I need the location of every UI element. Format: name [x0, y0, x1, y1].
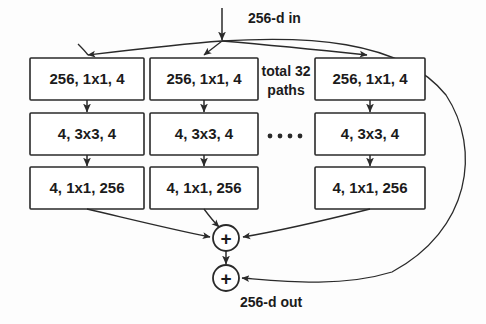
- merge-edge-path-32: [243, 209, 370, 237]
- paths-note-line-2: paths: [267, 82, 305, 98]
- path-1-box-3-label: 4, 1x1, 256: [49, 179, 124, 196]
- path-1-box-2-label: 4, 3x3, 4: [58, 125, 117, 142]
- path-2-box-2-label: 4, 3x3, 4: [175, 125, 234, 142]
- path-32-box-1-label: 256, 1x1, 4: [332, 70, 408, 87]
- path-2-box-3-label: 4, 1x1, 256: [166, 179, 241, 196]
- ellipsis-dot-1: [268, 134, 273, 139]
- ellipsis-dot-4: [298, 134, 303, 139]
- fanout-hook-path-1: [78, 44, 88, 55]
- residual-sum-symbol: +: [220, 268, 231, 289]
- fanout-edge-path-2: [204, 41, 222, 55]
- merge-edge-path-1: [87, 209, 210, 237]
- fanout-edge-path-32: [222, 41, 367, 55]
- fanout-edge-path-1: [88, 41, 222, 55]
- input-group: 256-d in: [222, 8, 301, 40]
- ellipsis-dot-2: [278, 134, 283, 139]
- path-1-column: 256, 1x1, 4 4, 3x3, 4 4, 1x1, 256: [30, 58, 144, 209]
- ellipsis-dot-3: [288, 134, 293, 139]
- merge-edge-path-2: [204, 209, 219, 227]
- output-label: 256-d out: [240, 294, 303, 310]
- path-2-box-1-label: 256, 1x1, 4: [166, 70, 242, 87]
- residual-sum-node[interactable]: +: [213, 265, 239, 291]
- paths-note-line-1: total 32: [261, 63, 310, 79]
- fanout-edges: [78, 41, 367, 55]
- aggregation-sum-symbol: +: [220, 228, 231, 249]
- paths-note: total 32 paths: [261, 63, 310, 98]
- path-32-box-3-label: 4, 1x1, 256: [332, 179, 407, 196]
- path-32-box-2-label: 4, 3x3, 4: [341, 125, 400, 142]
- path-32-column: 256, 1x1, 4 4, 3x3, 4 4, 1x1, 256: [315, 58, 425, 209]
- input-label: 256-d in: [248, 10, 301, 26]
- aggregation-sum-node[interactable]: +: [213, 225, 239, 251]
- resnext-block-diagram: 256-d in 256, 1x1, 4 4, 3x3, 4 4: [0, 0, 486, 324]
- path-2-column: 256, 1x1, 4 4, 3x3, 4 4, 1x1, 256: [150, 58, 258, 209]
- ellipsis-dots: [268, 134, 303, 139]
- path-1-box-1-label: 256, 1x1, 4: [49, 70, 125, 87]
- figure-canvas: 256-d in 256, 1x1, 4 4, 3x3, 4 4: [0, 0, 486, 324]
